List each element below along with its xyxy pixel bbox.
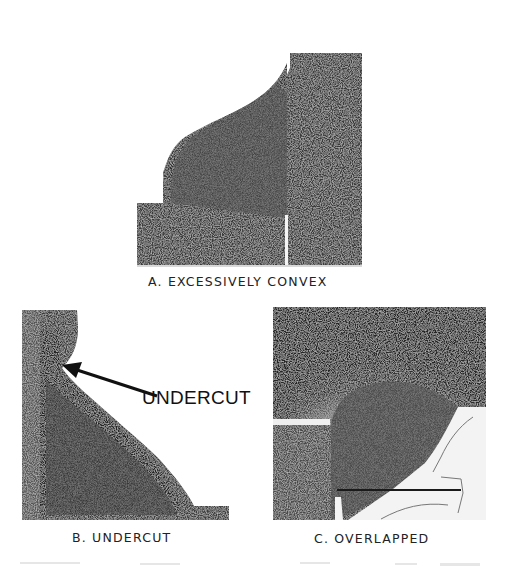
weld-photo-overlapped [273,307,486,520]
caption-b: B. UNDERCUT [72,530,171,545]
figure-panel-a: A. EXCESSIVELY CONVEX [137,53,362,293]
undercut-label: UNDERCUT [142,387,251,409]
figure-panel-c: C. OVERLAPPED [273,307,488,560]
weld-photo-excessively-convex [137,53,362,267]
weld-photo-undercut [22,310,232,520]
scan-noise [0,560,519,568]
figure-panel-b: UNDERCUT B. UNDERCUT [22,310,282,560]
caption-a: A. EXCESSIVELY CONVEX [148,274,328,289]
caption-c: C. OVERLAPPED [314,531,429,546]
